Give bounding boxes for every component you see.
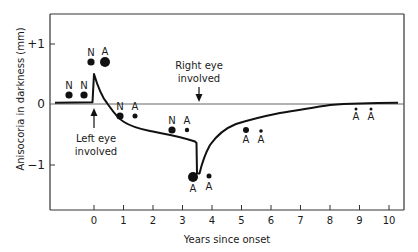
point-label: A [368,111,375,122]
x-axis-label: Years since onset [183,234,271,245]
right-eye-label-2: involved [178,73,220,84]
x-tick-1: 1 [120,215,126,226]
point-label: A [206,181,213,192]
x-tick-0: 0 [91,215,97,226]
point-label: A [132,101,139,112]
x-tick-4: 4 [209,215,215,226]
data-point [207,174,212,179]
point-label: N [80,80,87,91]
point-label: A [184,115,191,126]
x-tick-2: 2 [150,215,156,226]
plot-frame [50,14,404,210]
data-point [185,128,189,132]
trend-curve [55,74,398,174]
left-eye-label-2: involved [75,146,117,157]
left-eye-label-1: Left eye [76,133,116,144]
data-point [87,58,94,65]
data-point [65,91,72,98]
point-label: A [190,183,197,194]
x-tick-9: 9 [356,215,362,226]
x-tick-labels: 0 1 2 3 4 5 6 7 8 9 10 [91,215,396,226]
y-tick-plus1: +1 [27,37,45,51]
right-eye-annotation: Right eye involved [175,60,223,102]
point-label: N [65,80,72,91]
x-axis-ticks [94,205,389,210]
x-tick-8: 8 [327,215,333,226]
point-label: N [87,47,94,58]
x-tick-3: 3 [179,215,185,226]
point-label: N [168,115,175,126]
x-tick-10: 10 [383,215,396,226]
point-label: A [102,46,109,57]
data-point [168,126,175,133]
data-point [243,127,249,133]
data-point [100,57,110,67]
data-point [188,172,198,182]
point-label: A [353,111,360,122]
left-eye-annotation: Left eye involved [75,108,117,157]
x-tick-6: 6 [268,215,274,226]
point-label: N [116,101,123,112]
data-point [259,129,263,133]
right-eye-label-1: Right eye [175,60,223,71]
y-axis-label: Anisocoria in darkness (mm) [15,27,26,170]
x-tick-5: 5 [238,215,244,226]
y-tick-0: 0 [37,97,45,111]
data-point [133,114,138,119]
data-point [116,112,123,119]
data-point [80,91,87,98]
x-tick-7: 7 [297,215,303,226]
point-label: A [243,134,250,145]
y-tick-minus1: −1 [27,158,45,172]
chart-canvas: +1 0 −1 Anisocoria in darkness (mm) 0 1 … [0,0,418,252]
point-label: A [258,134,265,145]
